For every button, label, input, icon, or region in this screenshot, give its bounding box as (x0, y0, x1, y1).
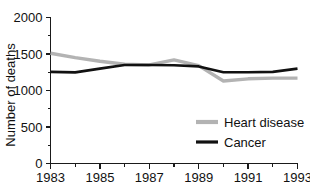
x-tick-label: 1989 (184, 170, 213, 185)
x-tick-label: 1983 (36, 170, 65, 185)
series-line-heart-disease (51, 53, 298, 81)
y-tick-label: 2000 (14, 10, 43, 25)
y-axis-title: Number of deaths (3, 43, 18, 147)
x-axis-ticks (51, 164, 298, 169)
x-tick-label: 1991 (234, 170, 263, 185)
y-axis-ticks (46, 18, 51, 164)
legend-label-heart-disease: Heart disease (224, 115, 304, 130)
x-tick-label: 1993 (283, 170, 310, 185)
series-group (51, 53, 298, 81)
y-tick-label: 500 (21, 120, 43, 135)
legend-label-cancer: Cancer (224, 135, 267, 150)
x-tick-label: 1987 (135, 170, 164, 185)
chart-canvas: 0500100015002000 19831985198719891991199… (0, 0, 310, 196)
line-chart: 0500100015002000 19831985198719891991199… (0, 0, 310, 196)
series-line-cancer (51, 65, 298, 72)
chart-legend: Heart diseaseCancer (196, 115, 304, 150)
x-axis-tick-labels: 198319851987198919911993 (36, 170, 310, 185)
x-tick-label: 1985 (85, 170, 114, 185)
